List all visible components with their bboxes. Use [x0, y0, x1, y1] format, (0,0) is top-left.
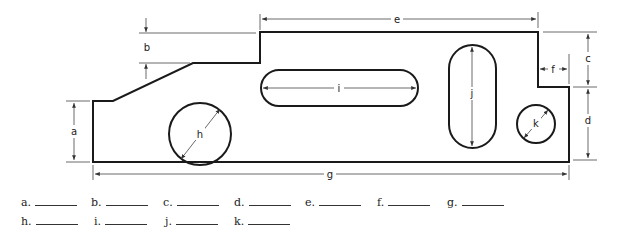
dim-i-label: i — [338, 83, 341, 94]
dim-j-label: j — [470, 88, 474, 99]
answer-blank[interactable] — [36, 215, 78, 225]
answer-d[interactable]: d. — [234, 196, 291, 209]
answer-a[interactable]: a. — [21, 196, 77, 209]
dim-g-label: g — [327, 169, 333, 180]
dim-e-label: e — [394, 14, 400, 25]
answer-label: g. — [447, 196, 458, 209]
answer-blank[interactable] — [105, 215, 147, 225]
part-outline — [93, 32, 569, 162]
answer-blank[interactable] — [106, 196, 148, 206]
answer-e[interactable]: e. — [305, 196, 361, 209]
answer-label: h. — [21, 215, 32, 228]
answer-blank[interactable] — [248, 215, 290, 225]
answer-label: b. — [91, 196, 102, 209]
dim-c-label: c — [585, 53, 591, 64]
answer-label: f. — [377, 196, 384, 209]
answer-label: e. — [305, 196, 315, 209]
answer-i[interactable]: i. — [94, 215, 147, 228]
answer-h[interactable]: h. — [21, 215, 78, 228]
dim-k-label: k — [533, 118, 539, 129]
dim-d-label: d — [585, 115, 591, 126]
dim-b-label: b — [144, 42, 150, 53]
answer-label: k. — [234, 215, 244, 228]
answer-blank[interactable] — [319, 196, 361, 206]
dim-a-label: a — [71, 126, 77, 137]
answer-blank[interactable] — [249, 196, 291, 206]
answer-blank[interactable] — [388, 196, 430, 206]
answer-blank[interactable] — [177, 196, 219, 206]
answer-blank[interactable] — [35, 196, 77, 206]
answer-blank[interactable] — [176, 215, 218, 225]
answer-j[interactable]: j. — [165, 215, 218, 228]
answer-label: c. — [163, 196, 173, 209]
answer-k[interactable]: k. — [234, 215, 290, 228]
answer-c[interactable]: c. — [163, 196, 219, 209]
answer-f[interactable]: f. — [377, 196, 430, 209]
answer-label: j. — [165, 215, 172, 228]
answer-b[interactable]: b. — [91, 196, 148, 209]
answer-g[interactable]: g. — [447, 196, 504, 209]
answer-label: d. — [234, 196, 245, 209]
answer-blank[interactable] — [462, 196, 504, 206]
answer-label: a. — [21, 196, 31, 209]
dim-h-label: h — [197, 129, 203, 140]
dim-f-label: f — [551, 64, 555, 75]
answer-label: i. — [94, 215, 101, 228]
